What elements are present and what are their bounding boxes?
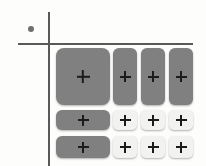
add-button-r3c2[interactable] — [113, 136, 137, 158]
add-button-r2c4[interactable] — [169, 110, 193, 130]
add-button-r1c4[interactable] — [169, 48, 193, 105]
plus-icon — [176, 71, 187, 82]
plus-icon — [176, 142, 187, 153]
button-grid-canvas — [0, 0, 206, 166]
add-button-r3c1[interactable] — [56, 136, 110, 158]
plus-icon — [77, 70, 90, 83]
plus-icon — [120, 71, 131, 82]
add-button-r1c1[interactable] — [56, 48, 110, 105]
plus-icon — [120, 115, 131, 126]
add-button-r1c3[interactable] — [141, 48, 165, 105]
plus-icon — [148, 115, 159, 126]
origin-dot-marker — [28, 26, 34, 32]
plus-icon — [78, 142, 89, 153]
plus-icon — [148, 71, 159, 82]
plus-icon — [176, 115, 187, 126]
add-button-r2c2[interactable] — [113, 110, 137, 130]
plus-icon — [120, 142, 131, 153]
horizontal-axis-line — [18, 43, 193, 45]
plus-icon — [78, 115, 89, 126]
plus-icon — [148, 142, 159, 153]
add-button-r2c1[interactable] — [56, 110, 110, 130]
vertical-axis-line — [48, 12, 50, 166]
add-button-r3c4[interactable] — [169, 136, 193, 158]
add-button-r2c3[interactable] — [141, 110, 165, 130]
add-button-r3c3[interactable] — [141, 136, 165, 158]
add-button-r1c2[interactable] — [113, 48, 137, 105]
